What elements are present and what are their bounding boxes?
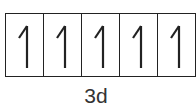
orbital-label: 3d: [0, 84, 192, 108]
half-arrow-up-icon: [55, 24, 71, 70]
orbital-box-5: [158, 14, 196, 76]
orbital-box-4: [120, 14, 158, 76]
orbital-box-2: [44, 14, 82, 76]
orbital-box-1: [6, 14, 44, 76]
half-arrow-up-icon: [131, 24, 147, 70]
half-arrow-up-icon: [17, 24, 33, 70]
half-arrow-up-icon: [169, 24, 185, 70]
orbital-box-3: [82, 14, 120, 76]
half-arrow-up-icon: [93, 24, 109, 70]
orbital-box-row: [5, 13, 196, 77]
